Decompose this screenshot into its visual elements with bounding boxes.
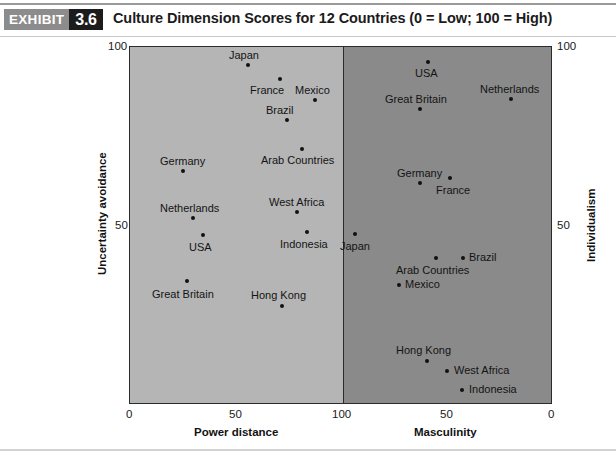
data-point-mexico-left: [313, 98, 317, 102]
data-label-mexico-left: Mexico: [295, 85, 330, 96]
data-label-hong-kong-left: Hong Kong: [251, 290, 306, 301]
panel-divider-line: [343, 47, 344, 403]
x-tick-center-100: 100: [332, 408, 351, 420]
x-tick-left-0: 0: [126, 408, 132, 420]
data-point-arab-countries-left: [300, 147, 304, 151]
y-tick-left-100: 100: [108, 40, 127, 52]
plot-area: Japan France Mexico Brazil Arab Countrie…: [129, 46, 552, 404]
data-point-germany-right: [418, 181, 422, 185]
data-label-usa-left: USA: [189, 242, 212, 253]
data-point-great-britain-right: [418, 107, 422, 111]
data-point-west-africa-left: [295, 210, 299, 214]
data-point-japan-left: [246, 63, 250, 67]
data-label-france-left: France: [250, 85, 284, 96]
data-label-mexico-right: Mexico: [405, 279, 440, 290]
exhibit-header: EXHIBIT 3.6 Culture Dimension Scores for…: [0, 8, 616, 34]
data-label-japan-left: Japan: [229, 50, 259, 61]
data-point-usa-left: [201, 233, 205, 237]
data-point-hong-kong-left: [280, 304, 284, 308]
exhibit-number-label: 3.6: [69, 9, 102, 30]
data-label-great-britain-right: Great Britain: [385, 94, 447, 105]
y-tick-left-50: 50: [115, 219, 128, 231]
data-label-arab-countries-left: Arab Countries: [261, 155, 334, 166]
data-point-netherlands-right: [509, 97, 513, 101]
data-point-netherlands-left: [191, 216, 195, 220]
top-divider-rule: [0, 3, 616, 5]
data-label-west-africa-right: West Africa: [454, 365, 509, 376]
y-axis-title-individualism: Individualism: [585, 189, 597, 263]
data-label-netherlands-right: Netherlands: [480, 84, 539, 95]
data-label-arab-countries-right: Arab Countries: [396, 265, 469, 276]
exhibit-title: Culture Dimension Scores for 12 Countrie…: [113, 10, 552, 26]
data-point-west-africa-right: [445, 369, 449, 373]
data-label-france-right: France: [436, 185, 470, 196]
data-point-hong-kong-right: [425, 359, 429, 363]
data-point-mexico-right: [397, 283, 401, 287]
data-label-japan-right: Japan: [340, 241, 370, 252]
data-point-indonesia-right: [460, 388, 464, 392]
data-label-indonesia-right: Indonesia: [469, 384, 517, 395]
data-label-usa-right: USA: [415, 68, 438, 79]
data-point-france-left: [278, 77, 282, 81]
data-label-netherlands-left: Netherlands: [160, 203, 219, 214]
x-tick-right-0: 0: [548, 408, 554, 420]
exhibit-figure: EXHIBIT 3.6 Culture Dimension Scores for…: [0, 0, 616, 453]
data-label-great-britain-left: Great Britain: [152, 289, 214, 300]
bottom-divider-rule: [0, 449, 616, 451]
data-label-brazil-left: Brazil: [266, 105, 294, 116]
y-tick-right-100: 100: [557, 40, 576, 52]
header-underline-rule: [0, 36, 616, 37]
data-point-brazil-left: [285, 118, 289, 122]
data-point-usa-right: [426, 60, 430, 64]
x-axis-title-power-distance: Power distance: [194, 426, 278, 438]
data-label-indonesia-left: Indonesia: [280, 239, 328, 250]
data-point-arab-countries-right: [434, 256, 438, 260]
x-tick-left-50: 50: [229, 408, 242, 420]
data-point-indonesia-left: [305, 230, 309, 234]
x-tick-right-50: 50: [440, 408, 453, 420]
y-axis-title-uncertainty-avoidance: Uncertainty avoidance: [96, 152, 108, 275]
panel-power-distance-uncertainty: [130, 47, 343, 403]
data-label-germany-left: Germany: [160, 156, 205, 167]
data-point-france-right: [448, 176, 452, 180]
exhibit-tag: EXHIBIT 3.6: [4, 9, 103, 30]
data-label-brazil-right: Brazil: [469, 252, 497, 263]
x-axis-title-masculinity: Masculinity: [414, 426, 477, 438]
exhibit-word-label: EXHIBIT: [4, 9, 69, 30]
data-point-brazil-right: [461, 256, 465, 260]
data-point-japan-right: [353, 232, 357, 236]
data-label-west-africa-left: West Africa: [269, 197, 324, 208]
data-label-hong-kong-right: Hong Kong: [396, 345, 451, 356]
data-point-great-britain-left: [185, 279, 189, 283]
y-tick-right-50: 50: [557, 219, 570, 231]
data-label-germany-right: Germany: [397, 168, 442, 179]
data-point-germany-left: [181, 169, 185, 173]
